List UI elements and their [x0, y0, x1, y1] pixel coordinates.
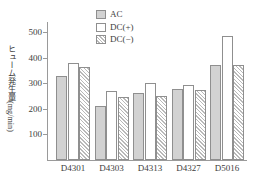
y-tick-label: 400 [29, 53, 43, 63]
legend-item-ac: AC [96, 9, 134, 20]
bar-D5016-dc-positive [222, 36, 233, 160]
legend-swatch-dc-positive [96, 23, 106, 32]
y-axis-title: ヒューム発生量(mg/min) [2, 18, 18, 158]
legend-item-dc-positive: DC(+) [96, 22, 134, 33]
bar-D4303-dc-positive [106, 91, 117, 160]
y-tick-label: 200 [29, 104, 43, 114]
x-axis-line [47, 160, 247, 161]
chart-legend: AC DC(+) DC(−) [96, 9, 134, 45]
bar-D5016-dc-negative [233, 65, 244, 160]
y-tick-mark [43, 109, 47, 110]
legend-item-dc-negative: DC(−) [96, 34, 134, 45]
bar-group-D4327 [172, 22, 206, 160]
y-tick-mark [43, 83, 47, 84]
bar-D5016-ac [210, 65, 221, 160]
bar-D4327-ac [172, 89, 183, 160]
bar-group-D4313 [133, 22, 167, 160]
bar-group-D4301 [56, 22, 90, 160]
bar-D4303-ac [95, 106, 106, 160]
x-axis-label-D5016: D5016 [215, 163, 240, 173]
bar-D4327-dc-positive [183, 85, 194, 160]
legend-swatch-ac [96, 10, 106, 19]
bar-D4313-dc-positive [145, 83, 156, 160]
y-tick-label: 300 [29, 78, 43, 88]
y-tick-mark [43, 58, 47, 59]
bar-D4301-ac [56, 76, 67, 160]
legend-swatch-dc-negative [96, 35, 106, 44]
bar-D4313-ac [133, 93, 144, 160]
x-axis-label-D4327: D4327 [176, 163, 201, 173]
bar-D4313-dc-negative [156, 96, 167, 160]
bar-D4303-dc-negative [118, 97, 129, 160]
bar-D4301-dc-negative [79, 67, 90, 160]
y-tick-label: 500 [29, 27, 43, 37]
bar-D4301-dc-positive [68, 63, 79, 160]
x-axis-label-D4303: D4303 [99, 163, 124, 173]
legend-label-dc-negative: DC(−) [110, 35, 134, 44]
y-tick-label: 100 [29, 129, 43, 139]
y-tick-mark [43, 134, 47, 135]
legend-label-dc-positive: DC(+) [110, 23, 134, 32]
y-tick-mark [43, 32, 47, 33]
bar-chart: ヒューム発生量(mg/min) 100200300400500 D4301D43… [0, 0, 254, 188]
legend-label-ac: AC [110, 10, 123, 19]
bar-group-D5016 [210, 22, 244, 160]
bar-D4327-dc-negative [195, 90, 206, 160]
plot-area: 100200300400500 [47, 22, 243, 160]
x-axis-label-D4313: D4313 [138, 163, 163, 173]
x-axis-label-D4301: D4301 [61, 163, 86, 173]
